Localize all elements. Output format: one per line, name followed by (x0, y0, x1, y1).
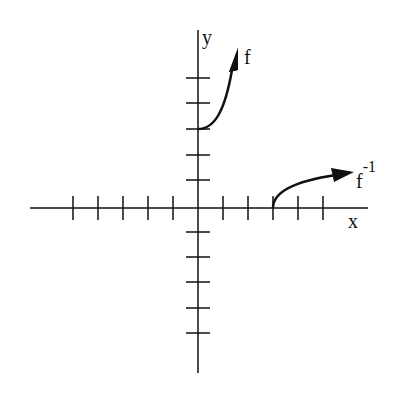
curve-f-inverse (273, 168, 354, 208)
x-axis-label: x (348, 210, 358, 232)
y-axis-label: y (202, 26, 212, 49)
arrowhead-icon (331, 168, 354, 182)
coordinate-graph: y x f f-1 (0, 0, 416, 401)
curve-f-inverse-superscript: -1 (363, 158, 376, 175)
curve-f-label: f (244, 46, 251, 68)
curve-f (198, 48, 238, 129)
curve-f-inverse-label: f-1 (356, 158, 376, 192)
